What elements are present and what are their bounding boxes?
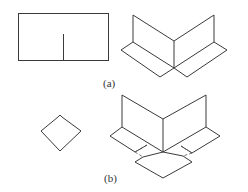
front-flap-right-edge bbox=[163, 152, 183, 156]
left-wall bbox=[133, 15, 174, 42]
panel-a-label: (a) bbox=[103, 78, 115, 89]
left-floor-flap bbox=[121, 42, 174, 77]
hidden-line-left-2 bbox=[135, 152, 143, 157]
left-wall-base bbox=[122, 127, 163, 152]
panel-a-flat-rectangle bbox=[19, 14, 109, 61]
panel-b-folded-shape bbox=[110, 95, 220, 178]
diagram-canvas: (a) (b) bbox=[0, 0, 248, 192]
right-wall-base bbox=[174, 42, 214, 68]
right-wall bbox=[163, 95, 206, 127]
hidden-line-right bbox=[181, 146, 192, 153]
hidden-line-left bbox=[135, 145, 147, 152]
right-floor-flap bbox=[174, 42, 227, 77]
left-wall bbox=[122, 95, 163, 127]
panel-b-flat-diamond bbox=[41, 115, 81, 151]
diamond-outline bbox=[41, 115, 81, 151]
right-wall bbox=[174, 15, 214, 42]
left-wall-base bbox=[133, 42, 174, 68]
diagram-svg bbox=[0, 0, 248, 192]
front-diamond-flap bbox=[135, 156, 192, 178]
right-floor-flap bbox=[181, 127, 220, 153]
hidden-line-right-2 bbox=[183, 153, 192, 156]
front-flap-left-edge bbox=[143, 152, 163, 157]
panel-b-label: (b) bbox=[104, 173, 117, 184]
panel-a-folded-shape bbox=[121, 15, 227, 77]
